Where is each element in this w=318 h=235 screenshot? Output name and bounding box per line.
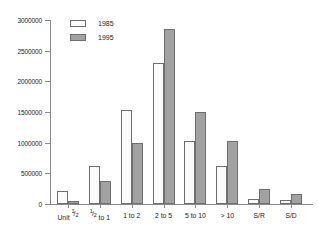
- bar-1985-S-R: [248, 199, 259, 204]
- bar-1985-S-D: [280, 200, 291, 204]
- x-axis-tick-label: 2 to 5: [155, 211, 172, 220]
- x-axis-tick-label: > 10: [221, 211, 234, 220]
- x-axis-tick: [132, 204, 133, 208]
- bar-1995-5-to-10: [195, 112, 206, 204]
- x-axis-tick: [195, 204, 196, 208]
- bar-1985-5-to-10: [184, 141, 195, 204]
- bar-1985->-10: [216, 166, 227, 204]
- bar-1985-Unit-1-2: [57, 191, 68, 204]
- bar-1995-1-2-to-1: [100, 181, 111, 204]
- x-axis-tick: [227, 204, 228, 208]
- y-axis-tick-label: 2500000: [17, 47, 42, 54]
- bar-1995->-10: [227, 141, 238, 204]
- x-axis-tick-label: 5 to 10: [185, 211, 206, 220]
- bar-1995-1-to-2: [132, 143, 143, 204]
- x-axis-tick-label: S/D: [285, 211, 296, 220]
- bar-1985-1-to-2: [121, 110, 132, 204]
- y-axis-tick-label: 500000: [21, 170, 42, 177]
- y-axis-tick-label: 2000000: [17, 78, 42, 85]
- x-axis-tick: [291, 204, 292, 208]
- x-axis-tick-label: S/R: [254, 211, 265, 220]
- y-axis-tick: [45, 204, 51, 205]
- bar-1995-S-D: [291, 194, 302, 204]
- bar-1995-2-to-5: [164, 29, 175, 204]
- bar-1995-S-R: [259, 189, 270, 204]
- x-axis-tick-label: 1 to 2: [123, 211, 140, 220]
- x-axis-tick-label: 1/2 to 1: [90, 211, 110, 222]
- bar-1985-1-2-to-1: [89, 166, 100, 204]
- x-axis-tick-label: Unit 1/2: [57, 211, 78, 222]
- y-axis-tick-label: 1000000: [17, 139, 42, 146]
- x-axis-tick: [68, 204, 69, 208]
- x-axis-tick: [164, 204, 165, 208]
- bar-1995-Unit-1-2: [68, 201, 79, 204]
- bar-1985-2-to-5: [153, 63, 164, 204]
- y-axis-tick-label: 1500000: [17, 109, 42, 116]
- plot-area: [51, 20, 306, 204]
- bar-chart: 0500000100000015000002000000250000030000…: [0, 0, 318, 235]
- x-axis-line: [45, 204, 313, 205]
- y-axis-tick-label: 0: [38, 201, 42, 208]
- y-axis-tick-label: 3000000: [17, 17, 42, 24]
- x-axis-tick: [100, 204, 101, 208]
- x-axis-tick: [259, 204, 260, 208]
